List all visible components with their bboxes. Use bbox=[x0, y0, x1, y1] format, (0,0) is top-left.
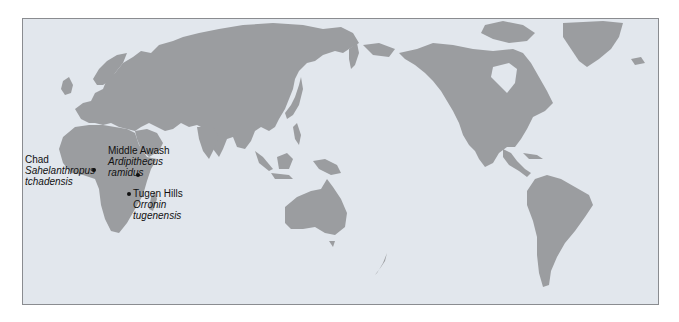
new-guinea bbox=[313, 159, 341, 175]
sumatra bbox=[255, 151, 273, 171]
south-america bbox=[527, 175, 593, 287]
site-label-middle-awash: Middle Awash Ardipithecus ramidus bbox=[108, 145, 170, 178]
site-marker-tugen-hills bbox=[127, 192, 131, 196]
australia bbox=[285, 179, 347, 235]
site-species: Ardipithecus bbox=[108, 156, 170, 167]
philippines bbox=[293, 123, 301, 145]
india bbox=[197, 127, 219, 159]
tasmania bbox=[329, 241, 335, 247]
central-america bbox=[503, 149, 531, 177]
chukotka bbox=[363, 43, 395, 57]
british-isles bbox=[61, 77, 73, 95]
java bbox=[271, 173, 293, 179]
site-place: Chad bbox=[25, 154, 95, 165]
site-species: Sahelanthropus bbox=[25, 165, 95, 176]
new-zealand bbox=[375, 253, 387, 275]
greenland bbox=[563, 21, 623, 67]
site-species: ramidus bbox=[108, 167, 170, 178]
borneo bbox=[277, 153, 293, 169]
site-label-tugen-hills: Tugen Hills Orronin tugenensis bbox=[133, 188, 183, 221]
arctic-islands bbox=[481, 21, 535, 43]
site-label-chad: Chad Sahelanthropus tchadensis bbox=[25, 154, 95, 187]
north-america bbox=[399, 43, 553, 167]
iceland bbox=[631, 57, 645, 65]
cuba bbox=[523, 153, 543, 159]
site-species: Orronin bbox=[133, 199, 183, 210]
site-species: tugenensis bbox=[133, 210, 183, 221]
site-place: Tugen Hills bbox=[133, 188, 183, 199]
site-species: tchadensis bbox=[25, 176, 95, 187]
site-place: Middle Awash bbox=[108, 145, 170, 156]
